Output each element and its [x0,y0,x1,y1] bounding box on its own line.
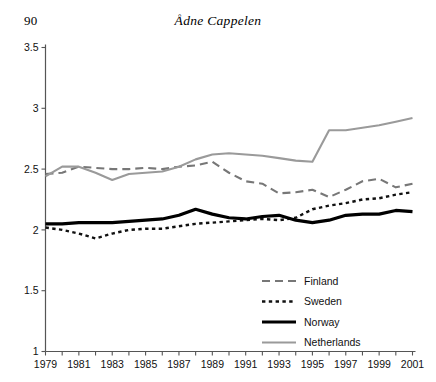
x-tick-label: 2001 [401,358,425,370]
x-tick-label: 1997 [334,358,358,370]
chart-svg: 11.522.533.51979198119831985198719891991… [0,36,436,382]
series-line-netherlands [46,118,413,180]
x-tick-label: 1993 [267,358,291,370]
y-tick-label: 1 [33,345,39,357]
y-tick-label: 3 [33,102,39,114]
x-tick-label: 1999 [367,358,391,370]
legend-label-sweden: Sweden [304,295,342,307]
y-tick-label: 1.5 [24,284,39,296]
x-tick-label: 1991 [234,358,258,370]
chart-series [46,118,413,238]
x-tick-label: 1985 [134,358,158,370]
running-head-title: Ådne Cappelen [0,14,436,28]
x-tick-label: 1981 [67,358,91,370]
chart-legend: FinlandSwedenNorwayNetherlands [262,275,361,349]
x-tick-label: 1979 [34,358,58,370]
series-line-finland [46,162,413,197]
legend-label-norway: Norway [304,316,340,328]
x-tick-label: 1995 [301,358,325,370]
figure-page: 90 Ådne Cappelen 11.522.533.519791981198… [0,0,436,382]
x-tick-label: 1983 [101,358,125,370]
x-tick-label: 1989 [201,358,225,370]
chart-axes: 11.522.533.51979198119831985198719891991… [24,41,424,370]
legend-label-netherlands: Netherlands [304,336,361,348]
y-tick-label: 2 [33,224,39,236]
y-tick-label: 2.5 [24,163,39,175]
legend-label-finland: Finland [304,275,339,287]
line-chart-figure: 11.522.533.51979198119831985198719891991… [0,36,436,382]
x-tick-label: 1987 [167,358,191,370]
y-tick-label: 3.5 [24,41,39,53]
